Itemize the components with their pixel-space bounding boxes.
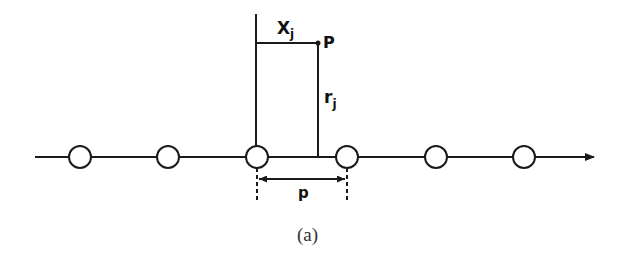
x-j-label: Xj <box>277 18 294 41</box>
diagram-canvas: Xj P rj p (a) <box>0 0 624 265</box>
node-circle <box>157 146 179 168</box>
pitch-label: p <box>298 184 309 202</box>
node-circle <box>336 146 358 168</box>
node-circle-origin <box>246 146 268 168</box>
node-circle <box>513 146 535 168</box>
node-circle <box>69 146 91 168</box>
point-p-label: P <box>323 33 335 52</box>
figure-caption: (a) <box>297 224 318 246</box>
r-j-label: rj <box>324 87 337 111</box>
point-p-dot <box>316 41 321 46</box>
node-circle <box>425 146 447 168</box>
